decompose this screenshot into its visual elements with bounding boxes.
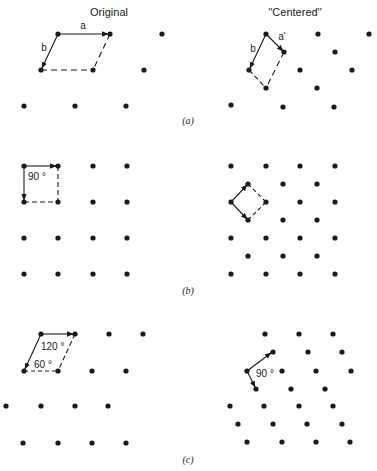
- lattice-point: [105, 403, 110, 408]
- lattice-figure: Original ''Centered'' a b a' b 90 °: [0, 0, 377, 471]
- lattice-point: [38, 67, 43, 72]
- lattice-point: [330, 403, 335, 408]
- vector-b-arrow: [247, 371, 255, 387]
- lattice-point: [244, 439, 249, 444]
- lattice-point: [55, 235, 60, 240]
- lattice-point: [280, 253, 285, 258]
- vector-a-label: a: [80, 20, 86, 31]
- lattice-point: [263, 199, 268, 204]
- lattice-point: [263, 235, 268, 240]
- lattice-point: [253, 386, 258, 391]
- vector-a-arrow: [231, 185, 247, 202]
- angle-label-90: 90 °: [28, 171, 46, 182]
- vector-b-arrow: [231, 202, 247, 219]
- lattice-point: [244, 368, 249, 373]
- lattice-point: [332, 163, 337, 168]
- lattice-point: [55, 271, 60, 276]
- lattice-point: [90, 67, 95, 72]
- lattice-point: [331, 104, 336, 109]
- lattice-point: [304, 421, 309, 426]
- lattice-point: [90, 163, 95, 168]
- lattice-point: [21, 163, 26, 168]
- lattice-point: [21, 199, 26, 204]
- cell-edge-dashed: [248, 202, 266, 220]
- lattice-point: [322, 386, 327, 391]
- vector-b-label: b: [250, 43, 256, 54]
- lattice-point: [141, 67, 146, 72]
- lattice-point: [315, 31, 320, 36]
- caption-c: (c): [182, 454, 194, 466]
- lattice-point: [330, 331, 335, 336]
- lattice-point: [55, 31, 60, 36]
- angle-label-60: 60 °: [34, 359, 52, 370]
- lattice-point: [297, 235, 302, 240]
- lattice-point: [339, 421, 344, 426]
- lattice-point: [313, 439, 318, 444]
- lattice-point: [262, 331, 267, 336]
- lattice-point: [123, 368, 128, 373]
- lattice-point: [90, 235, 95, 240]
- lattice-point: [124, 163, 129, 168]
- lattice-point: [228, 199, 233, 204]
- lattice-point: [366, 31, 371, 36]
- lattice-point: [89, 440, 94, 445]
- cell-edge-dashed: [266, 52, 284, 88]
- header-original: Original: [90, 6, 128, 18]
- lattice-point: [280, 104, 285, 109]
- lattice-point: [314, 253, 319, 258]
- panel-a-original-cell: [41, 34, 110, 70]
- lattice-point: [3, 403, 8, 408]
- lattice-point: [296, 403, 301, 408]
- lattice-point: [313, 368, 318, 373]
- angle-label-120: 120 °: [41, 341, 64, 352]
- lattice-point: [227, 403, 232, 408]
- lattice-point: [55, 199, 60, 204]
- lattice-point: [21, 368, 26, 373]
- lattice-point: [263, 271, 268, 276]
- lattice-point: [348, 368, 353, 373]
- lattice-points: [3, 31, 371, 445]
- lattice-point: [339, 349, 344, 354]
- lattice-point: [38, 403, 43, 408]
- lattice-point: [228, 163, 233, 168]
- lattice-point: [270, 421, 275, 426]
- lattice-point: [288, 386, 293, 391]
- lattice-point: [297, 271, 302, 276]
- lattice-point: [140, 331, 145, 336]
- lattice-point: [228, 102, 233, 107]
- lattice-point: [297, 163, 302, 168]
- lattice-point: [314, 181, 319, 186]
- lattice-point: [228, 271, 233, 276]
- lattice-point: [159, 31, 164, 36]
- vector-b-label: b: [41, 42, 47, 53]
- angle-label-90: 90 °: [256, 368, 274, 379]
- lattice-point: [72, 403, 77, 408]
- lattice-point: [332, 49, 337, 54]
- lattice-point: [124, 271, 129, 276]
- lattice-point: [106, 331, 111, 336]
- caption-b: (b): [182, 285, 194, 297]
- lattice-point: [90, 199, 95, 204]
- lattice-point: [55, 163, 60, 168]
- lattice-point: [305, 349, 310, 354]
- lattice-point: [332, 235, 337, 240]
- lattice-point: [20, 440, 25, 445]
- lattice-point: [245, 253, 250, 258]
- lattice-point: [124, 199, 129, 204]
- lattice-point: [280, 217, 285, 222]
- lattice-point: [245, 181, 250, 186]
- lattice-point: [72, 103, 77, 108]
- lattice-point: [107, 31, 112, 36]
- header-centered: ''Centered'': [268, 6, 322, 18]
- cell-edge-dashed: [248, 184, 266, 202]
- lattice-point: [332, 199, 337, 204]
- cell-edge-dashed: [93, 34, 110, 70]
- lattice-point: [280, 181, 285, 186]
- lattice-point: [235, 421, 240, 426]
- lattice-point: [228, 235, 233, 240]
- lattice-point: [123, 440, 128, 445]
- lattice-point: [297, 199, 302, 204]
- lattice-point: [314, 85, 319, 90]
- vector-a-prime-label: a': [278, 31, 286, 42]
- lattice-point: [123, 103, 128, 108]
